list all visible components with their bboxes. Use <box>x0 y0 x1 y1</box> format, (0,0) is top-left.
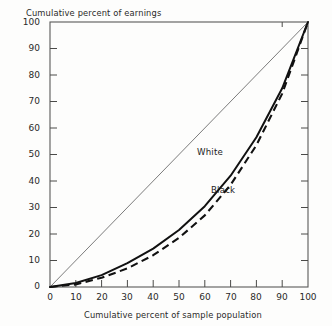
x-tick-label-10: 10 <box>63 292 89 302</box>
curve-label-black: Black <box>211 185 235 195</box>
lorenz-curve-figure: Cumulative percent of earnings Cumulativ… <box>0 0 332 326</box>
y-tick-label-90: 90 <box>14 43 40 53</box>
chart-canvas <box>0 0 332 326</box>
x-tick-label-20: 20 <box>89 292 115 302</box>
y-tick-label-60: 60 <box>14 123 40 133</box>
y-tick-label-0: 0 <box>14 281 40 291</box>
x-tick-label-80: 80 <box>243 292 269 302</box>
y-tick-label-40: 40 <box>14 176 40 186</box>
x-tick-label-0: 0 <box>37 292 63 302</box>
curve-label-white: White <box>197 147 223 157</box>
line-of-equality <box>50 22 308 287</box>
right-axis-ticks <box>301 49 308 261</box>
y-tick-label-50: 50 <box>14 149 40 159</box>
y-tick-label-100: 100 <box>14 17 40 27</box>
y-tick-label-80: 80 <box>14 70 40 80</box>
x-tick-label-90: 90 <box>269 292 295 302</box>
x-axis-ticks <box>76 280 282 287</box>
x-tick-label-50: 50 <box>166 292 192 302</box>
y-tick-label-10: 10 <box>14 255 40 265</box>
x-tick-label-30: 30 <box>114 292 140 302</box>
y-tick-label-70: 70 <box>14 96 40 106</box>
x-tick-label-70: 70 <box>218 292 244 302</box>
x-tick-label-100: 100 <box>295 292 321 302</box>
x-tick-label-60: 60 <box>192 292 218 302</box>
y-tick-label-20: 20 <box>14 229 40 239</box>
y-axis-ticks <box>50 49 57 261</box>
x-tick-label-40: 40 <box>140 292 166 302</box>
y-tick-label-30: 30 <box>14 202 40 212</box>
